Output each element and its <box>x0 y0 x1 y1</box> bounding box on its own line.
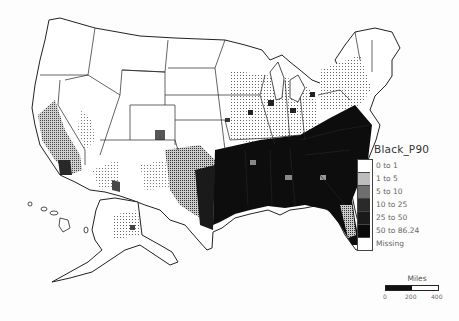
scale-tick: 200 <box>405 293 416 300</box>
legend-label: 0 to 1 <box>376 159 419 172</box>
scale-tick: 400 <box>431 293 442 300</box>
legend-swatches <box>357 159 373 251</box>
swatch-5-to-10 <box>358 186 370 199</box>
swatch-25-to-50 <box>358 212 370 225</box>
alaska <box>52 198 178 282</box>
legend-label: 25 to 50 <box>376 211 419 224</box>
legend-label: Missing <box>376 237 419 250</box>
legend-label: 1 to 5 <box>376 172 419 185</box>
swatch-missing <box>358 238 370 250</box>
swatch-10-to-25 <box>358 199 370 212</box>
legend-labels: 0 to 1 1 to 5 5 to 10 10 to 25 25 to 50 … <box>376 159 419 250</box>
scale-bar-graphic <box>385 285 439 291</box>
swatch-50-to-86 <box>358 225 370 238</box>
scale-tick: 0 <box>383 293 387 300</box>
swatch-1-to-5 <box>358 173 370 186</box>
swatch-0-to-1 <box>358 160 370 173</box>
legend-label: 10 to 25 <box>376 198 419 211</box>
hawaii <box>28 202 88 233</box>
legend-label: 5 to 10 <box>376 185 419 198</box>
legend-label: 50 to 86.24 <box>376 224 419 237</box>
scale-unit: Miles <box>391 274 443 283</box>
scale-bar: Miles 0 200 400 <box>383 274 443 283</box>
legend-title: Black_P90 <box>374 143 429 155</box>
